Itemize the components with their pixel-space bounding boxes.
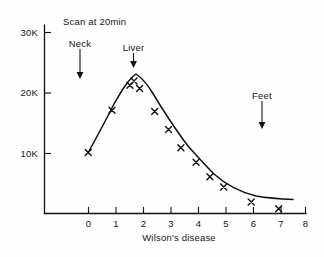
y-tick-label-30k: 30K: [8, 27, 38, 38]
x-tick-label-1: 1: [108, 218, 124, 229]
data-point: [221, 184, 227, 190]
data-point: [178, 145, 184, 151]
feet-annotation-arrow: [259, 101, 266, 129]
x-tick-label-6: 6: [246, 218, 262, 229]
data-point: [131, 78, 137, 84]
data-point: [193, 159, 199, 165]
x-tick-label-0: 0: [81, 218, 97, 229]
data-point: [207, 174, 213, 180]
chart-figure: 30K 20K 10K 0 1 2 3 4 5 6 7 8 Scan at 20…: [0, 0, 324, 257]
data-point: [85, 149, 91, 155]
annotation-label-neck: Neck: [60, 38, 100, 49]
chart-title: Scan at 20min: [63, 16, 126, 27]
x-tick-label-4: 4: [191, 218, 207, 229]
x-tick-label-8: 8: [298, 218, 314, 229]
y-tick-label-20k: 20K: [8, 87, 38, 98]
data-point: [152, 108, 158, 114]
data-point: [248, 199, 254, 205]
data-point: [166, 127, 172, 133]
data-point: [137, 85, 143, 91]
x-tick-label-5: 5: [218, 218, 234, 229]
neck-annotation-arrow: [77, 49, 84, 79]
y-tick-label-10k: 10K: [8, 148, 38, 159]
y-tick-marks: [45, 33, 52, 154]
x-tick-marks: [89, 207, 306, 214]
x-tick-label-2: 2: [136, 218, 152, 229]
liver-annotation-arrow: [130, 53, 137, 68]
annotation-label-liver: Liver: [114, 42, 154, 53]
x-axis-caption: Wilson's disease: [119, 232, 239, 243]
x-tick-label-7: 7: [273, 218, 289, 229]
x-tick-label-3: 3: [163, 218, 179, 229]
annotation-label-feet: Feet: [242, 90, 282, 101]
